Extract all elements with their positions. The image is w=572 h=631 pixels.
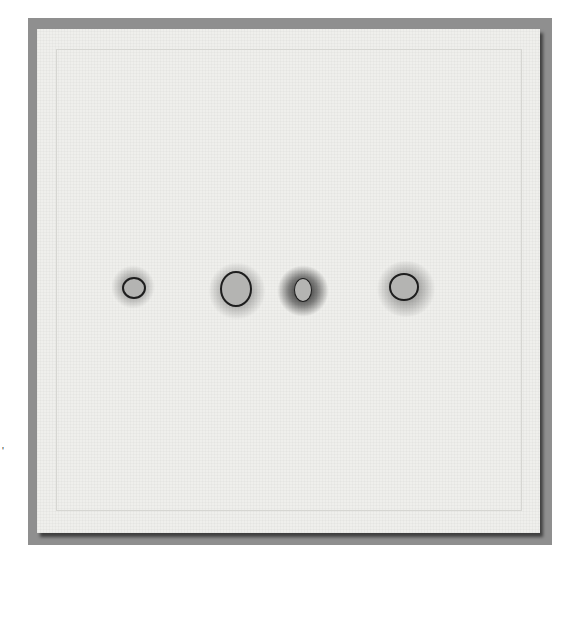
- hole-3: [294, 278, 312, 302]
- textile-panel: [37, 29, 540, 533]
- hole-4: [389, 273, 419, 301]
- hole-2: [220, 271, 252, 307]
- hole-1: [122, 277, 146, 299]
- margin-mark: ': [2, 446, 4, 457]
